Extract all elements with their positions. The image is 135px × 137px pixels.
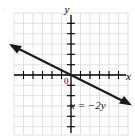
y-axis-label: y	[64, 3, 70, 15]
x-axis-label: x	[125, 70, 131, 82]
origin-label: 0	[64, 76, 69, 86]
coordinate-plane-svg: y x 0 x = −2y .	[0, 0, 135, 137]
corner-mark: .	[2, 3, 4, 12]
equation-annotation: x = −2y	[69, 99, 106, 111]
graph-figure: y x 0 x = −2y .	[0, 0, 135, 137]
